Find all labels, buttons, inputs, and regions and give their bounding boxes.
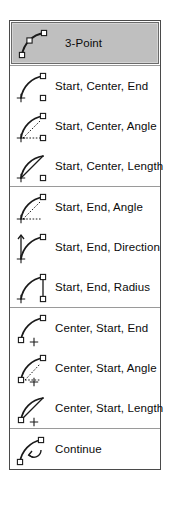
arc-start-end-angle-icon	[12, 188, 54, 226]
menu-item-label: Center, Start, End	[54, 322, 148, 335]
menu-item-label: Continue	[54, 443, 102, 456]
menu-section: Start, Center, EndStart, Center, AngleSt…	[10, 66, 160, 187]
arc-start-end-radius-icon	[12, 268, 54, 306]
menu-item-start-end-angle[interactable]: Start, End, Angle	[10, 187, 160, 227]
menu-item-label: Start, Center, End	[54, 80, 148, 93]
arc-center-start-length-icon	[12, 389, 54, 427]
menu-item-label: Start, End, Angle	[54, 201, 143, 214]
menu-item-start-center-angle[interactable]: Start, Center, Angle	[10, 106, 160, 146]
menu-item-center-start-end[interactable]: Center, Start, End	[10, 308, 160, 348]
menu-item-label: Start, End, Radius	[54, 281, 150, 294]
arc-center-start-end-icon	[12, 309, 54, 347]
arc-3point-icon	[13, 24, 55, 62]
arc-start-end-direction-icon	[12, 228, 54, 266]
menu-section: 3-Point	[10, 22, 160, 66]
menu-item-label: Center, Start, Angle	[54, 362, 157, 375]
menu-item-label: 3-Point	[55, 37, 102, 50]
menu-section: Continue	[10, 429, 160, 469]
menu-item-label: Start, Center, Length	[54, 160, 163, 173]
arc-tool-flyout-menu: 3-PointStart, Center, EndStart, Center, …	[9, 20, 161, 470]
menu-item-center-start-length[interactable]: Center, Start, Length	[10, 388, 160, 428]
menu-item-start-end-radius[interactable]: Start, End, Radius	[10, 267, 160, 307]
menu-item-label: Center, Start, Length	[54, 402, 163, 415]
menu-item-label: Start, End, Direction	[54, 241, 160, 254]
menu-item-center-start-angle[interactable]: Center, Start, Angle	[10, 348, 160, 388]
menu-item-start-end-direction[interactable]: Start, End, Direction	[10, 227, 160, 267]
menu-section: Center, Start, EndCenter, Start, AngleCe…	[10, 308, 160, 429]
menu-item-continue[interactable]: Continue	[10, 429, 160, 469]
menu-item-label: Start, Center, Angle	[54, 120, 157, 133]
arc-start-center-angle-icon	[12, 107, 54, 145]
arc-start-center-end-icon	[12, 67, 54, 105]
menu-section: Start, End, AngleStart, End, DirectionSt…	[10, 187, 160, 308]
menu-item-start-center-end[interactable]: Start, Center, End	[10, 66, 160, 106]
menu-item-3-point[interactable]: 3-Point	[11, 22, 159, 64]
arc-start-center-length-icon	[12, 147, 54, 185]
menu-item-start-center-length[interactable]: Start, Center, Length	[10, 146, 160, 186]
arc-continue-icon	[12, 430, 54, 468]
arc-center-start-angle-icon	[12, 349, 54, 387]
